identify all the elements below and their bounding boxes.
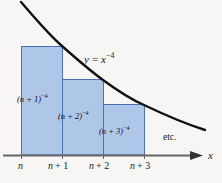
x-tick-label-2-rest: + 2 xyxy=(96,160,109,171)
bar-label-2-exponent: −4 xyxy=(82,110,89,116)
x-axis-arrow-icon xyxy=(190,151,203,160)
bar-label-2-base: (n + 2) xyxy=(58,111,82,121)
x-tick-label-3: n+ 3 xyxy=(130,161,150,171)
x-tick-label-1-rest: + 1 xyxy=(55,160,68,171)
bar-label-1-exponent: −4 xyxy=(41,93,48,99)
x-tick-label-1: n+ 1 xyxy=(48,161,68,171)
x-tick-label-0: n xyxy=(18,161,23,171)
curve-eq-equals: = xyxy=(92,53,98,65)
bar-label-2: (n + 2)−4 xyxy=(58,110,89,120)
x-tick-label-3-rest: + 3 xyxy=(137,160,150,171)
x-tick-label-0-base: n xyxy=(18,160,23,171)
x-tick-label-1-base: n xyxy=(48,160,53,171)
bar-label-3-exponent: −4 xyxy=(123,125,130,131)
x-tick-label-2: n+ 2 xyxy=(89,161,109,171)
figure-container: y=x−4 (n + 1)−4 (n + 2)−4 (n + 3)−4 etc.… xyxy=(0,0,222,183)
curve-eq-exponent: −4 xyxy=(106,51,114,60)
bar-label-1: (n + 1)−4 xyxy=(17,93,48,103)
curve-equation-label: y=x−4 xyxy=(84,52,114,65)
x-tick-label-3-base: n xyxy=(130,160,135,171)
etc-label: etc. xyxy=(163,133,176,143)
x-tick-label-2-base: n xyxy=(89,160,94,171)
x-axis-label: x xyxy=(208,150,213,161)
figure-canvas xyxy=(0,0,222,183)
bar-label-3: (n + 3)−4 xyxy=(99,125,130,135)
curve-eq-y: y xyxy=(84,53,89,65)
bar-label-1-base: (n + 1) xyxy=(17,94,41,104)
bar-label-3-base: (n + 3) xyxy=(99,126,123,136)
